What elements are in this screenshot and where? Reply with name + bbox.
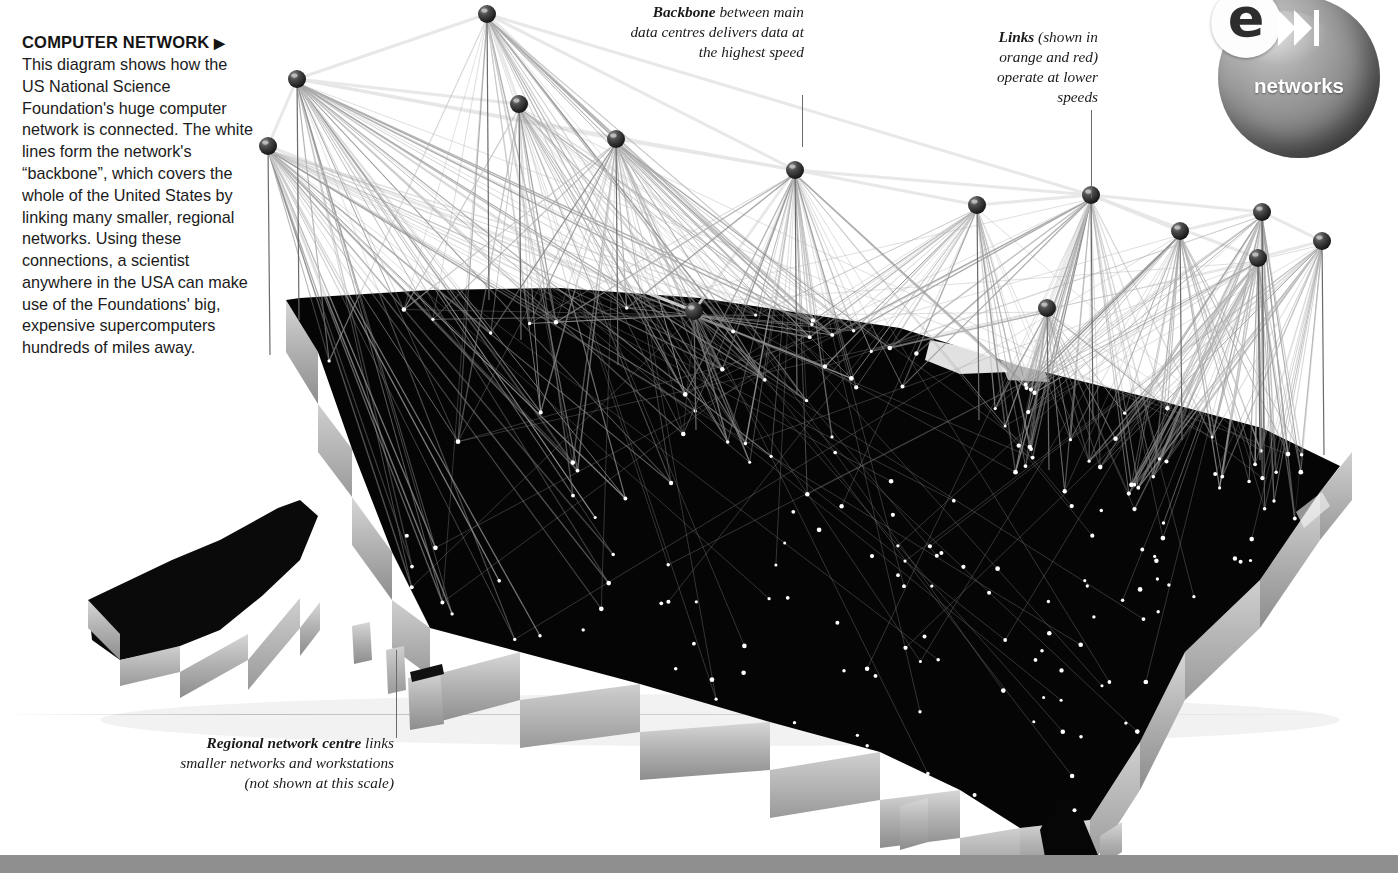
callout-links-lead: Links: [999, 28, 1035, 45]
regional-dot: [742, 644, 747, 649]
regional-dot: [902, 584, 906, 588]
regional-dot: [720, 367, 724, 371]
networks-badge: networks e: [1218, 0, 1380, 158]
regional-dot: [692, 642, 696, 646]
regional-dot: [995, 566, 1000, 571]
regional-dot: [854, 385, 858, 389]
regional-dot: [1164, 459, 1168, 463]
regional-dot: [1132, 507, 1136, 511]
regional-dot: [674, 667, 678, 671]
node-highlight: [481, 9, 487, 13]
regional-dot: [1140, 548, 1144, 552]
badge-e-letter: e: [1211, 0, 1281, 53]
regional-dot: [936, 658, 940, 662]
regional-dot: [450, 612, 453, 615]
backbone-node[interactable]: [510, 95, 528, 113]
regional-dot: [576, 469, 580, 473]
regional-dot: [1127, 492, 1131, 496]
regional-dot: [1249, 537, 1254, 542]
regional-dot: [433, 545, 438, 550]
regional-dot: [681, 432, 686, 437]
regional-dot: [497, 579, 501, 583]
backbone-node[interactable]: [1253, 203, 1271, 221]
regional-dot: [1070, 774, 1075, 779]
regional-dot: [1253, 462, 1257, 466]
regional-dot: [839, 504, 843, 508]
backbone-line: [1180, 212, 1262, 231]
backbone-line: [1262, 212, 1322, 241]
regional-dot: [774, 563, 777, 566]
regional-dot: [865, 666, 870, 671]
regional-dot: [683, 392, 688, 397]
backbone-line: [297, 14, 487, 79]
backbone-node[interactable]: [968, 196, 986, 214]
backbone-node[interactable]: [1038, 299, 1056, 317]
node-stem: [268, 146, 270, 355]
skip-forward-icon: [1276, 8, 1326, 48]
regional-dot: [513, 638, 516, 641]
regional-dot: [714, 698, 717, 701]
node-highlight: [789, 165, 795, 169]
backbone-node[interactable]: [1171, 222, 1189, 240]
regional-dot: [1192, 595, 1195, 598]
regional-dot: [870, 350, 873, 353]
regional-dot: [528, 322, 531, 325]
regional-dot: [1047, 600, 1050, 603]
regional-dot: [554, 320, 558, 324]
regional-dot: [896, 573, 900, 577]
regional-dot: [1113, 437, 1117, 441]
regional-dot: [440, 601, 444, 605]
backbone-node[interactable]: [786, 161, 804, 179]
backbone-node[interactable]: [478, 5, 496, 23]
regional-dot: [1040, 649, 1044, 653]
regional-dot: [935, 554, 939, 558]
node-highlight: [610, 134, 616, 138]
regional-dot: [1032, 720, 1035, 723]
regional-dot: [900, 384, 904, 388]
regional-dot: [611, 553, 614, 556]
regional-dot: [763, 378, 767, 382]
regional-dot: [930, 584, 933, 587]
backbone-node[interactable]: [1313, 232, 1331, 250]
regional-dot: [1121, 599, 1125, 603]
regional-dot: [1161, 536, 1166, 541]
intro-text-block: COMPUTER NETWORK ▶ This diagram shows ho…: [22, 32, 254, 359]
regional-dot: [431, 318, 434, 321]
regional-dot: [1142, 617, 1146, 621]
regional-dot: [973, 793, 977, 797]
backbone-node[interactable]: [685, 302, 703, 320]
regional-dot: [1086, 584, 1089, 587]
regional-dot: [1233, 556, 1237, 560]
regional-dot: [830, 333, 834, 337]
regional-dot: [852, 329, 855, 332]
regional-dot: [1213, 472, 1217, 476]
badge-label: networks: [1218, 74, 1380, 98]
node-highlight: [1174, 226, 1180, 230]
regional-dot: [793, 721, 796, 724]
badge-e-mark: e: [1211, 0, 1281, 58]
regional-dot: [1078, 642, 1083, 647]
regional-dot: [891, 513, 895, 517]
regional-dot: [808, 335, 812, 339]
backbone-node[interactable]: [259, 137, 277, 155]
regional-dot: [1162, 521, 1165, 524]
regional-dot: [659, 601, 663, 605]
regional-dot: [666, 563, 669, 566]
regional-dot: [695, 600, 698, 603]
node-highlight: [688, 306, 694, 310]
regional-dot: [811, 318, 815, 322]
regional-dot: [710, 677, 715, 682]
footer-bar: [0, 855, 1398, 873]
regional-dot: [805, 399, 808, 402]
regional-dot: [1013, 470, 1018, 475]
backbone-node[interactable]: [1249, 249, 1267, 267]
regional-dot: [961, 565, 965, 569]
regional-dot: [919, 660, 922, 663]
backbone-node[interactable]: [288, 70, 306, 88]
regional-dot: [918, 710, 921, 713]
regional-dot: [1135, 729, 1140, 734]
regional-dot: [1136, 486, 1140, 490]
backbone-node[interactable]: [607, 130, 625, 148]
regional-dot: [786, 596, 790, 600]
node-highlight: [971, 200, 977, 204]
